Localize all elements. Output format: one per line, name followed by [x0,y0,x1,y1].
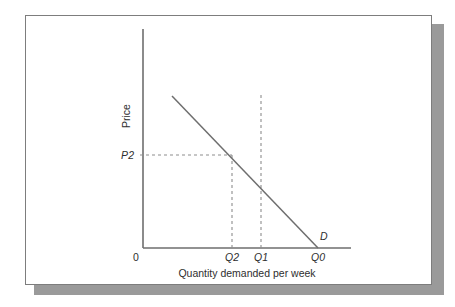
demand-curve-label: D [320,231,328,242]
price-label-p2: P2 [121,150,134,161]
demand-curve-figure: Price Quantity demanded per week 0 P2 Q2… [0,0,455,307]
x-axis-title: Quantity demanded per week [143,268,351,279]
demand-curve-line [172,96,318,248]
quantity-label-q1: Q1 [254,252,268,263]
quantity-label-q2: Q2 [225,252,239,263]
quantity-label-q0: Q0 [311,252,325,263]
origin-label: 0 [133,252,139,263]
y-axis-title: Price [120,94,132,138]
